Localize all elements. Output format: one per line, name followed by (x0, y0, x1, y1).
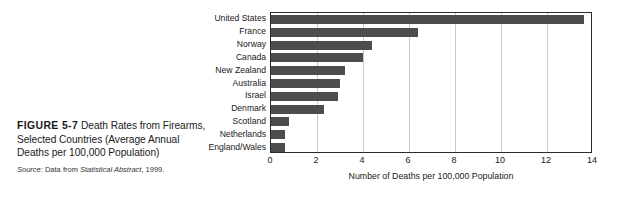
category-label: Canada (150, 52, 266, 62)
bar (271, 143, 285, 152)
category-label: Scotland (150, 116, 266, 126)
bar (271, 130, 285, 139)
x-tick-label: 2 (313, 155, 318, 165)
category-label: United States (150, 13, 266, 23)
bar-chart: United StatesFranceNorwayCanadaNew Zeala… (0, 0, 623, 201)
bar (271, 53, 363, 62)
bar (271, 105, 324, 114)
x-tick-label: 12 (541, 155, 551, 165)
x-tick-label: 0 (267, 155, 272, 165)
x-tick-label: 4 (359, 155, 364, 165)
x-tick-label: 8 (451, 155, 456, 165)
x-axis-title: Number of Deaths per 100,000 Population (270, 171, 592, 181)
category-label: Norway (150, 39, 266, 49)
bar (271, 41, 372, 50)
category-label: Denmark (150, 103, 266, 113)
bar (271, 66, 345, 75)
x-tick-label: 10 (495, 155, 505, 165)
x-axis-tick-labels: 02468101214 (270, 155, 592, 169)
bar-series (271, 13, 591, 152)
x-tick-label: 14 (587, 155, 597, 165)
category-label: England/Wales (150, 142, 266, 152)
x-tick-label: 6 (405, 155, 410, 165)
bar (271, 117, 289, 126)
bar (271, 92, 338, 101)
figure-page: FIGURE 5-7 Death Rates from Firearms, Se… (0, 0, 623, 201)
bar (271, 79, 340, 88)
bar (271, 15, 584, 24)
bar (271, 28, 418, 37)
category-label: Australia (150, 78, 266, 88)
plot-area (270, 12, 592, 153)
category-label: New Zealand (150, 65, 266, 75)
category-axis-labels: United StatesFranceNorwayCanadaNew Zeala… (150, 12, 266, 153)
category-label: Israel (150, 90, 266, 100)
category-label: France (150, 26, 266, 36)
category-label: Netherlands (150, 129, 266, 139)
